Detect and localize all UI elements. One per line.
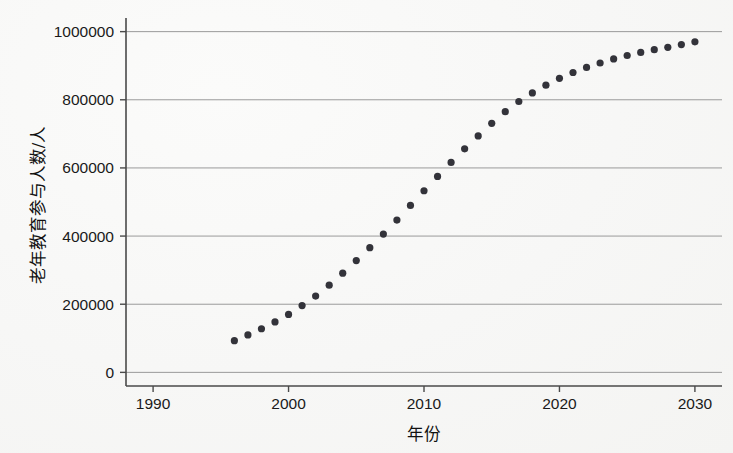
scatter-chart: 02000004000006000008000001000000 1990200… bbox=[0, 0, 733, 453]
y-axis-title: 老年教育参与人数/人 bbox=[29, 126, 48, 285]
data-point bbox=[678, 41, 685, 48]
data-point bbox=[244, 331, 251, 338]
y-axis-tick-labels: 02000004000006000008000001000000 bbox=[54, 23, 115, 381]
x-tick-label: 2030 bbox=[678, 395, 713, 412]
axis-ticks bbox=[120, 32, 695, 392]
y-tick-label: 400000 bbox=[62, 228, 114, 245]
x-tick-label: 1990 bbox=[136, 395, 171, 412]
y-tick-label: 1000000 bbox=[54, 23, 115, 40]
data-point bbox=[434, 173, 441, 180]
data-point bbox=[488, 120, 495, 127]
y-tick-label: 600000 bbox=[62, 159, 114, 176]
data-point bbox=[556, 75, 563, 82]
data-point bbox=[596, 59, 603, 66]
data-point bbox=[339, 270, 346, 277]
data-point bbox=[447, 159, 454, 166]
chart-figure: 02000004000006000008000001000000 1990200… bbox=[0, 0, 733, 453]
data-point bbox=[312, 292, 319, 299]
data-point bbox=[258, 325, 265, 332]
x-tick-label: 2000 bbox=[271, 395, 306, 412]
data-point bbox=[583, 64, 590, 71]
data-point bbox=[569, 69, 576, 76]
y-tick-label: 0 bbox=[105, 364, 114, 381]
data-point bbox=[380, 230, 387, 237]
axis-spines bbox=[126, 18, 722, 386]
data-point bbox=[366, 244, 373, 251]
data-point bbox=[271, 318, 278, 325]
data-point bbox=[353, 257, 360, 264]
data-point bbox=[542, 82, 549, 89]
x-tick-label: 2020 bbox=[542, 395, 577, 412]
data-point bbox=[515, 98, 522, 105]
y-tick-label: 200000 bbox=[62, 296, 114, 313]
data-point bbox=[502, 108, 509, 115]
gridlines bbox=[126, 32, 722, 373]
data-point bbox=[231, 337, 238, 344]
y-tick-label: 800000 bbox=[62, 91, 114, 108]
data-point bbox=[651, 46, 658, 53]
data-point bbox=[461, 145, 468, 152]
data-point bbox=[393, 216, 400, 223]
data-point bbox=[624, 52, 631, 59]
x-tick-label: 2010 bbox=[407, 395, 442, 412]
data-point bbox=[664, 44, 671, 51]
data-point bbox=[326, 282, 333, 289]
data-point-series bbox=[231, 38, 699, 344]
data-point bbox=[529, 89, 536, 96]
x-axis-tick-labels: 19902000201020202030 bbox=[136, 395, 713, 412]
x-axis-title: 年份 bbox=[407, 425, 441, 444]
data-point bbox=[475, 132, 482, 139]
data-point bbox=[285, 311, 292, 318]
data-point bbox=[610, 55, 617, 62]
data-point bbox=[420, 187, 427, 194]
data-point bbox=[298, 302, 305, 309]
data-point bbox=[691, 38, 698, 45]
data-point bbox=[407, 202, 414, 209]
data-point bbox=[637, 49, 644, 56]
